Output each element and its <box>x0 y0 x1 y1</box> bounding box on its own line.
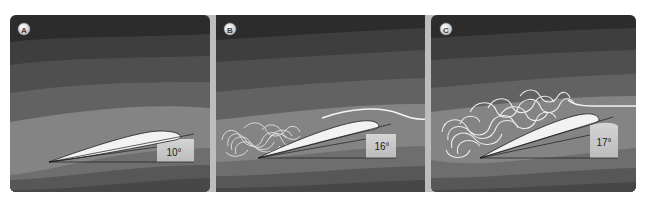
angle-label-b: 16° <box>374 141 389 152</box>
angle-label-a: 10° <box>166 147 181 158</box>
panel-b: 16° B <box>216 15 425 200</box>
panel-c: 17° C <box>431 15 636 200</box>
badge-b-label: B <box>227 26 233 35</box>
separator-2 <box>425 15 431 192</box>
separator-1 <box>210 15 216 192</box>
badge-a-label: A <box>21 26 27 35</box>
angle-label-c: 17° <box>596 137 611 148</box>
airfoil-stall-diagram: 10° A 16° <box>0 0 645 200</box>
badge-c-label: C <box>443 26 449 35</box>
panel-a: 10° A <box>10 15 210 200</box>
